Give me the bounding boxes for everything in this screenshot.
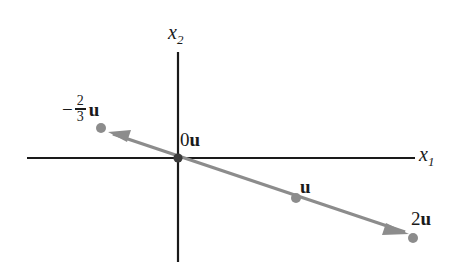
arrowhead-end — [382, 223, 409, 235]
minus-sign: − — [62, 100, 73, 119]
diagram-canvas — [0, 0, 463, 275]
fraction-numerator: 2 — [75, 94, 86, 108]
point-label-u: u — [300, 177, 311, 196]
point-label-zero-u: 0u — [180, 130, 200, 149]
vector-arrow-line — [108, 130, 409, 235]
point-neg-two-thirds-u — [96, 123, 106, 133]
x1-axis-label-subscript: 1 — [428, 154, 435, 169]
x2-axis-label-subscript: 2 — [177, 32, 184, 47]
vector-symbol-u: u — [190, 129, 201, 150]
vector-symbol-u: u — [300, 176, 311, 197]
scalar-zero: 0 — [180, 129, 190, 150]
x1-axis-label-base: x — [419, 143, 428, 165]
x2-axis-label-base: x — [168, 21, 177, 43]
point-label-neg-two-thirds-u: − 2 3 u — [62, 94, 99, 124]
scalar-two: 2 — [411, 208, 421, 229]
point-two-u — [408, 233, 418, 243]
arrowhead-start — [108, 130, 131, 142]
fraction-denominator: 3 — [75, 110, 86, 124]
x2-axis-label: x2 — [168, 22, 183, 46]
point-label-two-u: 2u — [411, 209, 431, 228]
vector-scalar-multiple-diagram: x2 x1 − 2 3 u 0u u 2u — [0, 0, 463, 275]
point-zero-u — [173, 153, 182, 162]
fraction-two-thirds: 2 3 — [75, 94, 86, 124]
x1-axis-label: x1 — [419, 144, 434, 168]
vector-symbol-u: u — [89, 100, 100, 119]
vector-symbol-u: u — [421, 208, 432, 229]
